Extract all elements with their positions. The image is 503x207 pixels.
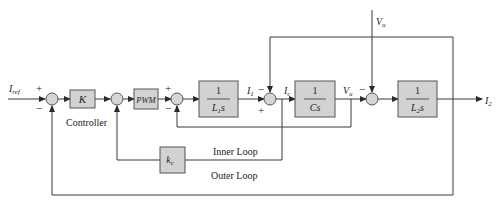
label-i2-output: I2 [484, 95, 492, 108]
sum-junction-4 [264, 93, 276, 105]
sign-sum3-minus: − [165, 102, 171, 114]
label-iref: Iref [8, 83, 21, 96]
block-pwm: PWM [134, 89, 158, 109]
label-vu-input: Vu [376, 16, 386, 29]
block-pwm-label: PWM [135, 95, 156, 105]
sign-sum4-minus: − [258, 83, 264, 95]
label-ic: Ic [283, 85, 291, 98]
sign-sum4-plus: + [258, 104, 264, 116]
annotation-outer-loop: Outer Loop [211, 170, 257, 181]
sign-sum5-minus: − [359, 83, 365, 95]
annotation-inner-loop: Inner Loop [213, 146, 258, 157]
block-cs-numerator: 1 [313, 85, 318, 96]
block-inductor2: 1 L2s [398, 81, 437, 117]
wire-inner-loop-to-sum2 [117, 106, 160, 160]
sum-junction-5 [366, 93, 378, 105]
block-k-label: K [78, 93, 87, 105]
annotation-controller: Controller [66, 117, 108, 128]
block-l2-numerator: 1 [415, 85, 420, 96]
sign-sum1-minus: − [36, 102, 42, 114]
sum-junction-2 [111, 93, 123, 105]
label-vu-signal: Vu [343, 85, 353, 98]
block-controller-k: K [70, 90, 95, 108]
block-inductor1: 1 L1s [199, 81, 238, 117]
control-block-diagram: K PWM 1 L1s 1 Cs 1 L2s kc Iref Vu I2 I1 … [0, 0, 503, 207]
block-inner-gain-kc: kc [160, 147, 185, 173]
sum-junction-3 [171, 93, 183, 105]
sign-sum3-plus: + [165, 82, 171, 94]
sign-sum1-plus: + [36, 82, 42, 94]
sum-junction-1 [46, 93, 58, 105]
block-cs-denominator: Cs [310, 102, 321, 113]
label-i1: I1 [246, 85, 254, 98]
block-l1-numerator: 1 [216, 85, 221, 96]
block-capacitor: 1 Cs [295, 81, 335, 117]
